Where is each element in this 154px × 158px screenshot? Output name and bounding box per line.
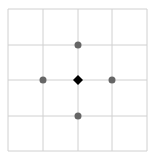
dot-right — [109, 77, 116, 84]
dot-down — [75, 113, 82, 120]
grid-diagram — [0, 0, 154, 158]
diamond-icon — [73, 75, 83, 85]
dot-up — [75, 42, 82, 49]
dot-left — [40, 77, 47, 84]
center-diamond-marker — [73, 75, 83, 85]
